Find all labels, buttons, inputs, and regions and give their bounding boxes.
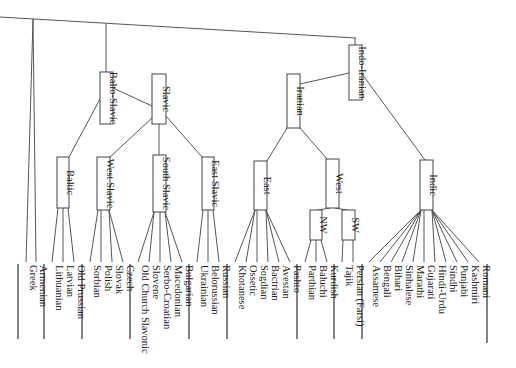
tree-edge (300, 73, 349, 84)
leaf-language-label: Serbo-Croatian (162, 265, 173, 330)
leaf-language-label: Old Church Slavonic (140, 265, 151, 354)
node-south-slavic: South Slavic (153, 155, 172, 212)
leaf-language-label: Ossetic (248, 265, 259, 296)
leaf-language-label: Kurdish (329, 265, 340, 300)
node-label: NW (318, 216, 329, 234)
node-balto-slavic: Balto-Slavic (100, 72, 119, 125)
leaf-language-label: Ukrainian (199, 265, 210, 308)
leaf-edge (432, 210, 468, 262)
leaf-language-label: Belorussian (210, 265, 221, 315)
leaf-language-label: Hindi-Urdu (437, 265, 448, 315)
leaf-edge (213, 210, 219, 262)
leaf-edge (305, 240, 311, 262)
node-label: South Slavic (161, 157, 172, 211)
node-slavic: Slavic (152, 74, 172, 124)
leaf-language-label: Persian (Farsi) (354, 265, 366, 327)
tree-edge (362, 74, 425, 160)
leaf-labels: GreekArmenianLithuanianLatvianOld Prussi… (28, 265, 492, 354)
tree-edges (0, 17, 479, 262)
leaf-language-label: Bengali (382, 265, 393, 298)
leaf-language-label: Sindhi (448, 265, 459, 293)
leaf-edge (380, 210, 421, 262)
node-label: East Slavic (210, 160, 221, 207)
node-indic: Indic (420, 160, 439, 210)
leaf-language-label: Slovak (114, 265, 125, 295)
leaf-edge (266, 210, 290, 262)
leaf-language-label: Sogdian (259, 265, 270, 300)
node-label: Slavic (161, 86, 172, 113)
leaf-language-label: Gujarati (426, 265, 437, 299)
leaf-language-label: Polish (103, 265, 114, 292)
leaf-language-label: Khotanese (237, 265, 248, 310)
leaf-language-label: Russian (221, 265, 232, 299)
node-label: West (334, 173, 345, 194)
leaf-language-label: Baluchi (318, 265, 329, 298)
leaf-language-label: Czech (125, 265, 136, 292)
leaf-language-label: Slovene (151, 265, 162, 299)
leaf-language-label: Bihari (393, 265, 404, 291)
node-label: Iranian (295, 86, 306, 116)
leaf-language-label: Sorbian (92, 265, 103, 298)
leaf-edge (197, 210, 203, 262)
leaf-language-label: Lithuanian (54, 265, 65, 311)
leaf-edge (90, 210, 98, 262)
leaf-language-label: Avestan (281, 265, 292, 299)
node-east-slavic: East Slavic (202, 157, 221, 210)
leaf-language-label: Sinhalese (404, 265, 415, 306)
node-label: SW (350, 217, 361, 233)
node-label: Indic (428, 174, 439, 196)
node-indo-iranian: Indo-Iranian (349, 45, 368, 100)
node-baltic: Baltic (57, 157, 76, 208)
leaf-language-label: Marathi (415, 265, 426, 298)
root-branch-line (0, 17, 356, 38)
leaf-language-label: Romani (481, 265, 492, 298)
tree-nodes: Balto-SlavicSlavicBalticWest SlavicSouth… (57, 45, 439, 240)
tree-edge (69, 99, 100, 157)
leaf-language-label: Old Prussian (76, 265, 87, 320)
leaf-edge (342, 240, 343, 262)
leaf-edge (235, 210, 255, 262)
tree-edge (300, 128, 327, 159)
node-label: Indo-Iranian (357, 46, 368, 99)
leaf-language-label: Kashmiri (470, 265, 481, 304)
leaf-edge (321, 240, 327, 262)
leaf-language-label: Pashto (292, 265, 303, 293)
language-family-tree: GreekArmenianLithuanianLatvianOld Prussi… (0, 0, 516, 368)
leaf-edge (52, 208, 58, 262)
node-label: Baltic (65, 170, 76, 195)
node-east-iranian: East (254, 161, 273, 210)
leaf-language-label: Latvian (65, 265, 76, 298)
tree-edge (26, 19, 33, 262)
leaf-language-label: Punjabi (459, 265, 470, 297)
leaf-language-label: Armenian (38, 265, 49, 308)
tree-edge (33, 19, 36, 262)
tree-edge (267, 128, 287, 161)
node-nw-iranian: NW (310, 210, 329, 240)
leaf-language-label: Bulgarian (184, 265, 195, 307)
leaf-language-label: Macedonian (173, 265, 184, 318)
node-label: West Slavic (105, 159, 116, 209)
leaf-language-label: Greek (28, 265, 39, 291)
leaf-edge (402, 210, 421, 262)
leaf-language-label: Tajik (344, 265, 355, 287)
tree-edge (166, 116, 202, 157)
node-label: Balto-Slavic (108, 72, 119, 125)
leaf-language-label: Assamese (371, 265, 382, 307)
leaf-edge (68, 208, 74, 262)
leaf-edge (246, 210, 255, 262)
leaf-edge (432, 210, 457, 262)
leaf-language-label: Parthian (307, 265, 318, 301)
node-iranian: Iranian (287, 74, 306, 128)
leaf-language-label: Bactrian (270, 265, 281, 301)
node-label: East (262, 176, 273, 194)
node-west-slavic: West Slavic (97, 157, 116, 210)
node-sw-iranian: SW (342, 210, 361, 240)
node-west-iranian: West (326, 159, 345, 208)
